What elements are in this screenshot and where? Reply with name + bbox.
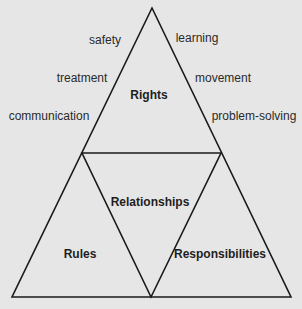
section-label-responsibilities: Responsibilities	[174, 247, 266, 261]
section-label-rights: Rights	[130, 88, 167, 102]
rights-item-problem-solving: problem-solving	[212, 109, 297, 123]
rights-item-movement: movement	[195, 71, 251, 85]
rights-item-learning: learning	[176, 31, 219, 45]
inner-inverted-triangle	[82, 153, 221, 297]
section-label-relationships: Relationships	[111, 195, 190, 209]
triangle-diagram-lines	[0, 0, 302, 309]
rights-relationships-rules-responsibilities-diagram: safety treatment communication learning …	[0, 0, 302, 309]
section-label-rules: Rules	[64, 247, 97, 261]
rights-item-treatment: treatment	[57, 71, 108, 85]
rights-item-communication: communication	[9, 109, 90, 123]
rights-item-safety: safety	[89, 33, 121, 47]
